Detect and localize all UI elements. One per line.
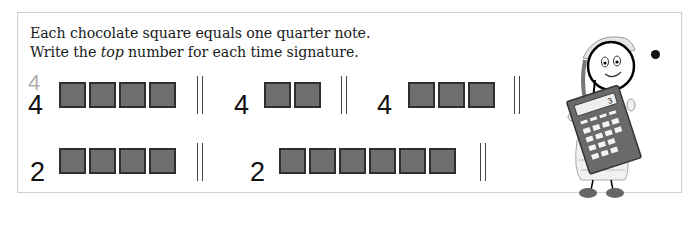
quarter-note-squares — [59, 82, 176, 108]
chocolate-square — [264, 82, 291, 108]
double-barline — [197, 76, 203, 114]
quarter-note-squares — [279, 148, 456, 174]
chocolate-square — [59, 148, 86, 174]
bottom-number: 4 — [28, 92, 43, 119]
chocolate-square — [89, 148, 116, 174]
chocolate-square — [149, 82, 176, 108]
chocolate-square — [89, 82, 116, 108]
double-barline — [480, 143, 486, 181]
chocolate-square — [149, 148, 176, 174]
instructions: Each chocolate square equals one quarter… — [30, 24, 370, 61]
girl-with-calculator-illustration: 3 — [555, 30, 675, 200]
instruction-line-1: Each chocolate square equals one quarter… — [30, 24, 370, 43]
double-barline — [514, 76, 520, 114]
bottom-number: 4 — [234, 92, 249, 119]
chocolate-square — [119, 148, 146, 174]
chocolate-square — [309, 148, 336, 174]
chocolate-square — [429, 148, 456, 174]
chocolate-square — [399, 148, 426, 174]
quarter-note-squares — [264, 82, 321, 108]
chocolate-square — [438, 82, 465, 108]
chocolate-square — [369, 148, 396, 174]
emphasis-top: top — [101, 44, 124, 60]
quarter-note-squares — [408, 82, 495, 108]
chocolate-square — [119, 82, 146, 108]
chocolate-square — [279, 148, 306, 174]
instruction-line-2: Write the top number for each time signa… — [30, 43, 370, 62]
double-barline — [197, 143, 203, 181]
double-barline — [341, 76, 347, 114]
chocolate-square — [339, 148, 366, 174]
chocolate-square — [468, 82, 495, 108]
quarter-note-squares — [59, 148, 176, 174]
chocolate-square — [294, 82, 321, 108]
bottom-number: 4 — [377, 92, 392, 119]
chocolate-square — [59, 82, 86, 108]
bottom-number: 2 — [250, 159, 265, 186]
bottom-number: 2 — [30, 159, 45, 186]
chocolate-square — [408, 82, 435, 108]
